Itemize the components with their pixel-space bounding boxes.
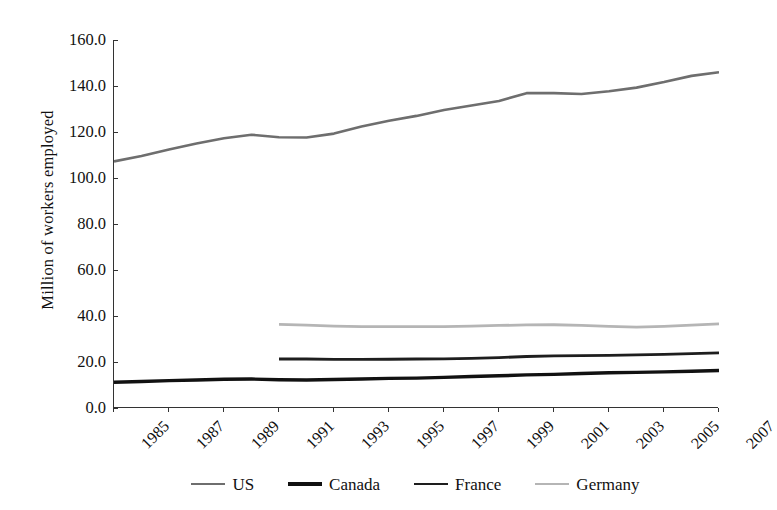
x-tick-mark [608,408,609,412]
x-tick-label: 2003 [633,418,667,452]
y-tick-label: 0.0 [40,400,106,417]
legend-item-germany[interactable]: Germany [535,476,639,493]
x-tick-label: 1991 [303,418,337,452]
x-axis-tick-labels: 1985198719891991199319951997199920012003… [113,408,718,478]
y-tick-label: 40.0 [40,308,106,325]
x-tick-mark [113,408,114,412]
x-tick-label: 1999 [523,418,557,452]
legend-item-canada[interactable]: Canada [288,476,380,493]
x-tick-label: 1993 [358,418,392,452]
legend-swatch-us-icon [191,483,225,486]
y-tick-label: 20.0 [40,354,106,371]
x-tick-label: 1985 [138,418,172,452]
x-tick-mark [333,408,334,412]
series-line-germany [279,324,719,327]
x-tick-mark [663,408,664,412]
plot-area [113,40,718,408]
x-tick-label: 1997 [468,418,502,452]
chart-legend: USCanadaFranceGermany [113,470,718,498]
legend-item-us[interactable]: US [191,476,254,493]
legend-label: Canada [329,476,380,493]
y-tick-label: 60.0 [40,262,106,279]
y-axis-tick-labels: 160.0140.0120.0100.080.060.040.020.00.0 [38,40,106,408]
legend-label: France [455,476,501,493]
series-line-canada [114,371,719,383]
legend-label: Germany [576,476,639,493]
legend-label: US [232,476,254,493]
y-tick-label: 140.0 [40,78,106,95]
y-tick-label: 120.0 [40,124,106,141]
x-tick-mark [168,408,169,412]
x-tick-mark [223,408,224,412]
y-tick-label: 160.0 [40,32,106,49]
x-tick-label: 1995 [413,418,447,452]
x-tick-label: 1989 [248,418,282,452]
y-tick-label: 100.0 [40,170,106,187]
x-tick-label: 2007 [743,418,777,452]
y-tick-label: 80.0 [40,216,106,233]
x-tick-mark [718,408,719,412]
x-tick-label: 2001 [578,418,612,452]
series-line-us [114,72,719,161]
plot-lines [114,40,719,408]
x-tick-mark [553,408,554,412]
x-tick-mark [278,408,279,412]
x-tick-label: 2005 [688,418,722,452]
legend-swatch-germany-icon [535,483,569,486]
legend-swatch-canada-icon [288,482,322,485]
series-line-france [279,353,719,360]
x-tick-label: 1987 [193,418,227,452]
x-tick-mark [388,408,389,412]
x-tick-mark [443,408,444,412]
legend-swatch-france-icon [414,483,448,486]
legend-item-france[interactable]: France [414,476,501,493]
x-tick-mark [498,408,499,412]
